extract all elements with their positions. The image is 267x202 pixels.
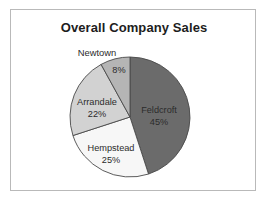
slice-label-hempstead: Hempstead (88, 143, 135, 153)
slice-value-arrandale: 22% (88, 109, 106, 119)
chart-frame: Overall Company Sales Feldcroft45%Hempst… (10, 9, 256, 191)
slice-label-arrandale: Arrandale (77, 97, 117, 107)
slice-value-newtown: 8% (112, 65, 125, 75)
slice-label-newtown: Newtown (78, 47, 117, 58)
slice-value-hempstead: 25% (102, 155, 120, 165)
slice-value-feldcroft: 45% (150, 117, 168, 127)
slice-label-feldcroft: Feldcroft (141, 105, 177, 115)
pie-chart: Feldcroft45%Hempstead25%Arrandale22%Newt… (11, 10, 257, 192)
